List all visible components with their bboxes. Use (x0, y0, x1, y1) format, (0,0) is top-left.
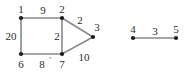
edge-weight-labels-group: 920822103 (6, 4, 159, 70)
vertex-label-7: 7 (59, 58, 65, 70)
vertex-label-5: 5 (173, 23, 179, 35)
vertex-label-4: 4 (130, 23, 136, 35)
graph-vertex-4 (131, 36, 135, 40)
edge-weight-7-3: 10 (79, 51, 91, 63)
edge-weight-1-6: 20 (6, 30, 18, 42)
graph-vertex-6 (19, 52, 23, 56)
prime-after-8: ' (49, 56, 51, 65)
graph-canvas: 920822103 1236745 ' (0, 0, 188, 74)
edge-weight-1-2: 9 (40, 4, 46, 16)
graph-vertex-2 (60, 16, 64, 20)
vertex-label-2: 2 (59, 3, 65, 15)
graph-vertex-1 (19, 16, 23, 20)
graph-vertex-7 (60, 52, 64, 56)
edge-weight-6-7: 8 (39, 58, 45, 70)
vertex-label-6: 6 (18, 58, 24, 70)
edge-weight-4-5: 3 (152, 25, 158, 37)
graph-vertex-3 (91, 35, 95, 39)
vertex-label-1: 1 (18, 3, 24, 15)
tick-marks-group: ' (49, 56, 51, 65)
graph-vertex-5 (174, 36, 178, 40)
edge-weight-2-3: 2 (77, 14, 83, 26)
edge-weight-2-7: 2 (54, 30, 60, 42)
graph-figure: 920822103 1236745 ' (0, 0, 188, 74)
vertex-label-3: 3 (94, 21, 100, 33)
